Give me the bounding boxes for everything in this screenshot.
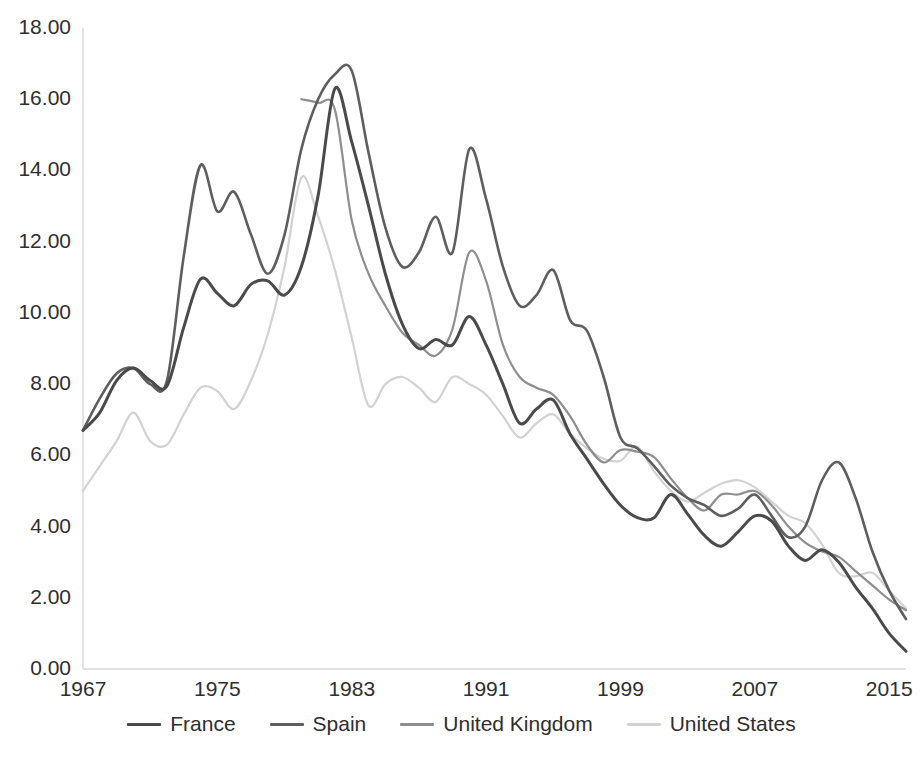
legend-entry-united-kingdom[interactable]: United Kingdom bbox=[400, 712, 592, 736]
legend-entry-france[interactable]: France bbox=[127, 712, 235, 736]
legend-swatch-icon bbox=[627, 723, 661, 726]
y-tick-label: 2.00 bbox=[30, 585, 71, 609]
y-tick-label: 14.00 bbox=[18, 157, 71, 181]
x-tick-label: 2007 bbox=[710, 677, 800, 701]
line-chart: 0.002.004.006.008.0010.0012.0014.0016.00… bbox=[0, 0, 923, 766]
legend-swatch-icon bbox=[127, 723, 161, 726]
y-tick-label: 16.00 bbox=[18, 86, 71, 110]
y-tick-label: 12.00 bbox=[18, 229, 71, 253]
y-tick-label: 10.00 bbox=[18, 300, 71, 324]
legend-label: Spain bbox=[313, 712, 367, 736]
x-tick-label: 1991 bbox=[441, 677, 531, 701]
y-tick-label: 4.00 bbox=[30, 514, 71, 538]
x-tick-label: 1983 bbox=[307, 677, 397, 701]
chart-legend: FranceSpainUnited KingdomUnited States bbox=[0, 712, 923, 736]
plot-area bbox=[0, 0, 923, 766]
legend-label: United States bbox=[670, 712, 796, 736]
legend-label: France bbox=[170, 712, 235, 736]
x-tick-label: 1967 bbox=[38, 677, 128, 701]
legend-swatch-icon bbox=[270, 723, 304, 726]
x-tick-label: 2015 bbox=[844, 677, 923, 701]
series-paths bbox=[83, 65, 906, 651]
y-tick-label: 8.00 bbox=[30, 371, 71, 395]
y-tick-label: 6.00 bbox=[30, 442, 71, 466]
y-tick-label: 18.00 bbox=[18, 15, 71, 39]
legend-entry-united-states[interactable]: United States bbox=[627, 712, 796, 736]
legend-swatch-icon bbox=[400, 723, 434, 726]
x-tick-label: 1975 bbox=[172, 677, 262, 701]
axis-lines bbox=[83, 28, 906, 669]
series-line-united-states bbox=[83, 176, 906, 608]
legend-label: United Kingdom bbox=[443, 712, 592, 736]
legend-entry-spain[interactable]: Spain bbox=[270, 712, 367, 736]
x-tick-label: 1999 bbox=[575, 677, 665, 701]
